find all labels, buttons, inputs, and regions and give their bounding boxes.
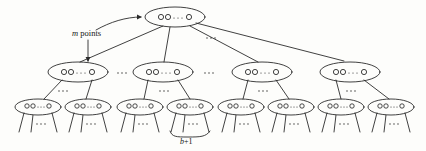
dot-glyph bbox=[206, 37, 207, 38]
node-n2-2 bbox=[133, 62, 193, 82]
dot-glyph bbox=[94, 123, 95, 124]
edge-root-n2-2 bbox=[164, 27, 170, 62]
node-root bbox=[145, 7, 205, 27]
leg-n3-5-b bbox=[234, 115, 236, 132]
leg-n3-3-c bbox=[154, 113, 159, 132]
dot-glyph bbox=[240, 106, 241, 107]
circle-glyph bbox=[334, 104, 338, 108]
leg-n3-8-a bbox=[372, 113, 377, 132]
edge-root-n2-4 bbox=[196, 23, 344, 61]
dot-glyph bbox=[165, 72, 166, 73]
circle-glyph bbox=[31, 104, 35, 108]
dot-glyph bbox=[36, 123, 37, 124]
dot-glyph bbox=[243, 106, 244, 107]
leg-n3-3-a bbox=[121, 113, 126, 132]
ellipsis-legs-8 bbox=[389, 123, 398, 124]
dot-glyph bbox=[354, 90, 355, 91]
dot-glyph bbox=[90, 106, 91, 107]
leg-n3-4-c bbox=[204, 113, 209, 132]
glyph-n2-2 bbox=[146, 69, 179, 74]
circle-glyph bbox=[47, 104, 51, 108]
circle-glyph bbox=[165, 14, 170, 19]
edge-n2-3-right bbox=[276, 80, 289, 99]
dot-glyph bbox=[204, 72, 205, 73]
dot-glyph bbox=[139, 106, 140, 107]
glyph-n2-4 bbox=[333, 69, 366, 74]
dot-glyph bbox=[393, 106, 394, 107]
ellipsis-subtree-4 bbox=[346, 90, 355, 91]
circle-glyph bbox=[284, 104, 288, 108]
dot-glyph bbox=[348, 72, 349, 73]
leaf-1 bbox=[15, 99, 61, 132]
dot-glyph bbox=[390, 106, 391, 107]
ellipsis-subtree-1 bbox=[58, 90, 67, 91]
leg-n3-6-b bbox=[284, 115, 286, 132]
node-n2-4 bbox=[320, 62, 380, 82]
circle-glyph bbox=[81, 104, 85, 108]
glyph-n3-4 bbox=[177, 104, 203, 108]
leg-n3-7-a bbox=[322, 113, 327, 132]
m-points-label: m points bbox=[72, 29, 101, 38]
ellipsis-legs-5 bbox=[239, 123, 248, 124]
dot-glyph bbox=[258, 90, 259, 91]
dot-glyph bbox=[40, 123, 41, 124]
leaf-5 bbox=[218, 99, 264, 132]
circle-glyph bbox=[252, 69, 257, 74]
ellipsis-legs-4 bbox=[188, 123, 197, 124]
dot-glyph bbox=[167, 90, 168, 91]
circle-glyph bbox=[133, 104, 137, 108]
glyph-n3-2 bbox=[75, 104, 101, 108]
circle-glyph bbox=[183, 104, 187, 108]
leg-n3-7-c bbox=[355, 113, 360, 132]
leg-n3-1-a bbox=[19, 113, 24, 132]
dot-glyph bbox=[266, 90, 267, 91]
dot-glyph bbox=[293, 106, 294, 107]
circle-glyph bbox=[75, 104, 79, 108]
glyph-n3-1 bbox=[25, 104, 51, 108]
dot-glyph bbox=[117, 72, 118, 73]
leg-n3-2-a bbox=[69, 113, 74, 132]
circle-glyph bbox=[350, 104, 354, 108]
dot-glyph bbox=[356, 72, 357, 73]
dot-glyph bbox=[173, 17, 174, 18]
dot-glyph bbox=[87, 106, 88, 107]
circle-glyph bbox=[400, 104, 404, 108]
dot-glyph bbox=[80, 72, 81, 73]
circle-glyph bbox=[97, 104, 101, 108]
glyph-n3-7 bbox=[328, 104, 354, 108]
leg-n3-1-b bbox=[31, 115, 33, 132]
m-points-arrow-to-root bbox=[96, 17, 141, 30]
ellipsis-subtree-2 bbox=[159, 90, 168, 91]
leg-n3-8-b bbox=[384, 115, 386, 132]
dot-glyph bbox=[43, 106, 44, 107]
circle-glyph bbox=[149, 104, 153, 108]
circle-glyph bbox=[300, 104, 304, 108]
edge-n2-3-left bbox=[243, 80, 248, 99]
edge-n2-1-left bbox=[44, 80, 62, 99]
circle-glyph bbox=[273, 69, 278, 74]
dot-glyph bbox=[262, 90, 263, 91]
edge-n2-2-right bbox=[178, 80, 190, 99]
edge-n2-1-right bbox=[86, 80, 92, 99]
circle-glyph bbox=[278, 104, 282, 108]
circle-glyph bbox=[328, 104, 332, 108]
leg-n3-5-c bbox=[255, 113, 260, 132]
dot-glyph bbox=[189, 106, 190, 107]
glyph-n2-3 bbox=[245, 69, 278, 74]
leaf-6 bbox=[268, 99, 314, 132]
dot-glyph bbox=[66, 90, 67, 91]
leaf-8 bbox=[368, 99, 414, 132]
glyph-n2-1 bbox=[61, 69, 94, 74]
dot-glyph bbox=[268, 72, 269, 73]
circle-glyph bbox=[186, 14, 191, 19]
leg-n3-2-b bbox=[81, 115, 83, 132]
circle-glyph bbox=[25, 104, 29, 108]
dot-glyph bbox=[208, 72, 209, 73]
leaf-2 bbox=[65, 99, 111, 132]
ellipsis-level2-1 bbox=[117, 72, 126, 73]
circle-glyph bbox=[153, 69, 158, 74]
leg-n3-8-c bbox=[405, 113, 410, 132]
circle-glyph bbox=[340, 69, 345, 74]
tree-diagram-figure: m points b+1 bbox=[0, 0, 426, 151]
dot-glyph bbox=[246, 106, 247, 107]
